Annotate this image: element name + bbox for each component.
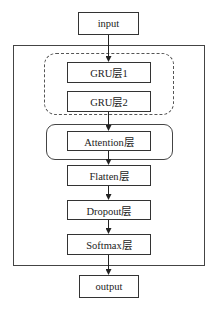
node-dropout-label: Dropout层 [87,203,132,218]
node-gru2-label: GRU层2 [90,94,127,109]
node-gru2: GRU层2 [67,91,151,112]
node-softmax: Softmax层 [67,234,151,255]
node-attention-label: Attention层 [84,134,134,149]
node-gru1: GRU层1 [67,62,151,83]
node-input-label: input [98,18,120,29]
connector-arrows [0,0,217,314]
node-input: input [78,12,139,35]
node-output: output [79,275,139,298]
node-flatten-label: Flatten层 [89,168,128,183]
node-flatten: Flatten层 [67,165,151,186]
node-softmax-label: Softmax层 [86,237,132,252]
node-output-label: output [96,281,123,292]
node-attention: Attention层 [67,131,151,151]
node-dropout: Dropout层 [67,200,151,220]
node-gru1-label: GRU层1 [90,65,127,80]
